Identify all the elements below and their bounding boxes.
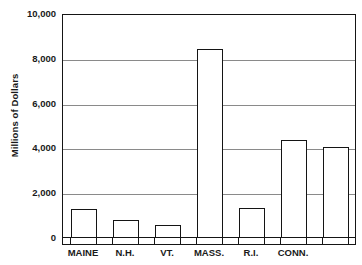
bar-chart: Millions of Dollars 02,0004,0006,0008,00… <box>0 0 362 265</box>
y-tick-label: 2,000 <box>0 188 56 198</box>
x-tick-label: R.I. <box>244 247 259 258</box>
bar <box>71 209 97 237</box>
bar-series <box>63 15 355 237</box>
bar <box>323 147 349 237</box>
x-tick-label: MAINE <box>68 247 99 258</box>
x-tick-label: MASS. <box>194 247 224 258</box>
x-tick-label: VT. <box>160 247 174 258</box>
x-tick-label: CONN. <box>278 247 309 258</box>
x-tick-label: N.H. <box>116 247 135 258</box>
y-axis-tick-labels: 02,0004,0006,0008,00010,000 <box>0 0 60 250</box>
y-tick-label: 8,000 <box>0 54 56 64</box>
bar <box>113 220 139 237</box>
bar <box>155 225 181 237</box>
y-tick-label: 10,000 <box>0 9 56 19</box>
bar <box>197 49 223 237</box>
bar <box>239 208 265 237</box>
bar <box>281 140 307 237</box>
y-tick-label: 6,000 <box>0 99 56 109</box>
plot-area <box>62 14 356 238</box>
x-axis-tick-labels: MAINEN.H.VT.MASS.R.I.CONN. <box>62 247 356 263</box>
x-axis-baseline <box>62 244 356 245</box>
y-tick-label: 4,000 <box>0 143 56 153</box>
y-tick-label: 0 <box>0 233 56 243</box>
